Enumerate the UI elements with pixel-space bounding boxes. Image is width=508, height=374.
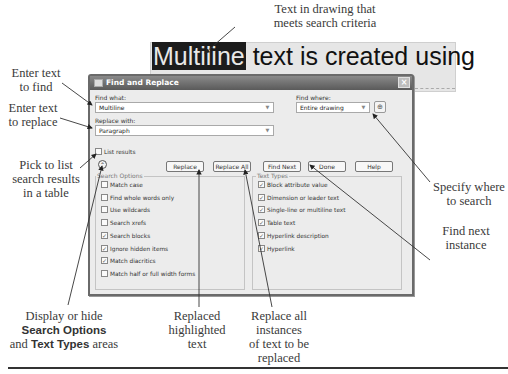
checkbox-checked-icon[interactable]: ✓ (258, 206, 265, 213)
checkbox-box[interactable] (101, 219, 108, 226)
list-results-checkbox[interactable]: List results (95, 148, 135, 156)
callout-line: replaced (244, 351, 314, 365)
find-next-button[interactable]: Find Next (263, 161, 301, 172)
option-label: Find whole words only (110, 195, 174, 201)
page-rule (8, 367, 508, 369)
callout-line: of text to be (244, 337, 314, 351)
replace-button[interactable]: Replace (166, 161, 204, 172)
callout-line: Display or hide (8, 309, 120, 323)
option-checkbox[interactable]: Match case (101, 181, 143, 189)
callout-specify-where: Specify where to search (425, 180, 508, 208)
checkbox-checked-icon[interactable]: ✓ (101, 245, 108, 252)
callout-text-in-drawing: Text in drawing that meets search criter… (255, 2, 395, 30)
checkbox-checked-icon[interactable]: ✓ (258, 181, 265, 188)
option-checkbox[interactable]: ✓Hyperlink (258, 245, 295, 253)
callout-line: meets search criteria (255, 16, 395, 30)
close-icon: × (401, 78, 408, 87)
callout-list-results: Pick to list search results in a table (8, 158, 84, 200)
option-checkbox[interactable]: ✓Table text (258, 219, 295, 227)
option-checkbox[interactable]: Find whole words only (101, 194, 174, 202)
callout-line: Replaced (165, 309, 229, 323)
callout-enter-replace: Enter text to replace (0, 101, 66, 129)
replace-with-value: Paragraph (99, 127, 130, 134)
help-button[interactable]: Help (355, 161, 393, 172)
checkbox-checked-icon[interactable]: ✓ (258, 219, 265, 226)
callout-line: Find next (430, 224, 502, 238)
callout-replace-all: Replace all instances of text to be repl… (244, 309, 314, 365)
checkbox-checked-icon[interactable]: ✓ (258, 245, 265, 252)
callout-bold: Search Options (22, 324, 107, 336)
search-options-title: Search Options (96, 172, 144, 179)
dialog-titlebar[interactable]: Find and Replace × (90, 76, 412, 90)
callout-find-next: Find next instance (430, 224, 502, 252)
callout-line: search results (8, 172, 84, 186)
find-where-select[interactable]: Entire drawing ▼ (296, 102, 370, 113)
option-label: Block attribute value (267, 182, 327, 188)
option-checkbox[interactable]: Match half or full width forms (101, 270, 195, 278)
checkbox-box[interactable] (95, 148, 102, 155)
option-label: Match half or full width forms (110, 271, 195, 277)
replace-all-button[interactable]: Replace All (213, 161, 251, 172)
option-checkbox[interactable]: ✓Single-line or multiline text (258, 206, 346, 214)
checkbox-box[interactable] (101, 194, 108, 201)
checkbox-checked-icon[interactable]: ✓ (101, 232, 108, 239)
callout-line: Enter text (2, 66, 70, 80)
callout-line: highlighted (165, 323, 229, 337)
checkbox-box[interactable] (101, 206, 108, 213)
callout-line: in a table (8, 186, 84, 200)
option-checkbox[interactable]: ✓Block attribute value (258, 181, 327, 189)
replace-with-input[interactable]: Paragraph ▼ (95, 125, 274, 136)
checkbox-box[interactable] (101, 181, 108, 188)
list-results-label: List results (104, 149, 135, 155)
option-label: Hyperlink description (267, 233, 329, 239)
checkbox-checked-icon[interactable]: ✓ (101, 257, 108, 264)
callout-line: Enter text (0, 101, 66, 115)
callout-line: to search (425, 194, 508, 208)
chevron-down-icon[interactable]: ▼ (263, 104, 272, 111)
done-button[interactable]: Done (308, 161, 346, 172)
checkbox-checked-icon[interactable]: ✓ (258, 232, 265, 239)
replace-with-label: Replace with: (95, 117, 135, 124)
option-label: Search blocks (110, 233, 150, 239)
chevron-down-icon[interactable]: ▼ (263, 127, 272, 134)
checkbox-box[interactable] (101, 270, 108, 277)
callout-line: to find (2, 80, 70, 94)
find-what-value: Multiline (99, 104, 125, 111)
drawing-text: Multiline text is created using (152, 41, 475, 71)
chevron-down-icon[interactable]: ▼ (359, 104, 368, 111)
option-label: Single-line or multiline text (267, 207, 346, 213)
find-replace-dialog: Find and Replace × Find what: Multiline … (88, 74, 414, 296)
option-checkbox[interactable]: ✓Hyperlink description (258, 232, 329, 240)
callout-enter-find: Enter text to find (2, 66, 70, 94)
options-toggle-button[interactable]: ⌃ (98, 160, 107, 169)
app-icon (94, 79, 103, 87)
callout-line: and (10, 337, 31, 351)
select-objects-icon: ⊕ (377, 103, 383, 111)
option-checkbox[interactable]: Search xrefs (101, 219, 146, 227)
option-checkbox[interactable]: ✓Dimension or leader text (258, 194, 339, 202)
callout-display-hide: Display or hide Search Options and Text … (8, 309, 120, 351)
option-label: Dimension or leader text (267, 195, 339, 201)
chevron-up-icon: ⌃ (100, 161, 105, 168)
find-what-input[interactable]: Multiline ▼ (95, 102, 274, 113)
option-label: Ignore hidden items (110, 246, 168, 252)
select-objects-button[interactable]: ⊕ (374, 101, 386, 113)
callout-line: instances (244, 323, 314, 337)
callout-line: Pick to list (8, 158, 84, 172)
option-checkbox[interactable]: ✓Ignore hidden items (101, 245, 168, 253)
checkbox-checked-icon[interactable]: ✓ (258, 194, 265, 201)
highlighted-match: Multiline (152, 42, 246, 70)
option-checkbox[interactable]: ✓Search blocks (101, 232, 150, 240)
close-button[interactable]: × (398, 77, 410, 88)
callout-replaced: Replaced highlighted text (165, 309, 229, 351)
option-checkbox[interactable]: ✓Match diacritics (101, 257, 156, 265)
option-label: Table text (267, 220, 295, 226)
find-what-label: Find what: (95, 94, 126, 101)
dialog-title: Find and Replace (106, 78, 179, 87)
find-where-value: Entire drawing (300, 104, 344, 111)
option-label: Hyperlink (267, 246, 295, 252)
option-label: Search xrefs (110, 220, 146, 226)
callout-line: Specify where (425, 180, 508, 194)
option-checkbox[interactable]: Use wildcards (101, 206, 150, 214)
callout-line: Replace all (244, 309, 314, 323)
